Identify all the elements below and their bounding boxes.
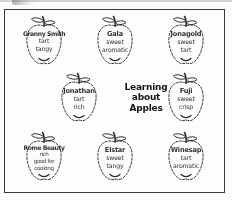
apple-card-fuji: Fuji sweet crisp xyxy=(151,69,221,126)
apple-card-jonathan: Jonathan tart rich xyxy=(44,69,114,126)
apple-illustration: Elstar sweet tangy xyxy=(80,128,150,185)
apple-outline-icon xyxy=(80,128,150,185)
apple-outline-icon xyxy=(151,12,221,69)
scan-artifact-mark xyxy=(12,0,38,5)
apple-illustration: Jonagold sweet tart xyxy=(151,12,221,69)
apple-illustration: Jonathan tart rich xyxy=(44,69,114,126)
apple-outline-icon xyxy=(9,12,79,69)
apple-illustration: Gala sweet aromatic xyxy=(80,12,150,69)
apple-grid: Granny Smith tart tangy xyxy=(5,10,224,192)
apple-card-winesap: Winesap tart aromatic xyxy=(151,128,221,185)
apple-illustration: Rome Beauty rich good for cooking xyxy=(9,128,79,185)
apple-card-gala: Gala sweet aromatic xyxy=(80,12,150,69)
scanned-worksheet-page: Granny Smith tart tangy xyxy=(0,0,232,200)
apple-card-jonagold: Jonagold sweet tart xyxy=(151,12,221,69)
apple-illustration: Fuji sweet crisp xyxy=(151,69,221,126)
apple-illustration: Granny Smith tart tangy xyxy=(9,12,79,69)
apple-outline-icon xyxy=(151,69,221,126)
worksheet-frame: Granny Smith tart tangy xyxy=(4,9,225,193)
apple-card-granny-smith: Granny Smith tart tangy xyxy=(9,12,79,69)
apple-outline-icon xyxy=(80,12,150,69)
apple-illustration: Winesap tart aromatic xyxy=(151,128,221,185)
apple-card-elstar: Elstar sweet tangy xyxy=(80,128,150,185)
apple-outline-icon xyxy=(44,69,114,126)
apple-outline-icon xyxy=(151,128,221,185)
apple-outline-icon xyxy=(9,128,79,185)
apple-card-rome-beauty: Rome Beauty rich good for cooking xyxy=(9,128,79,185)
